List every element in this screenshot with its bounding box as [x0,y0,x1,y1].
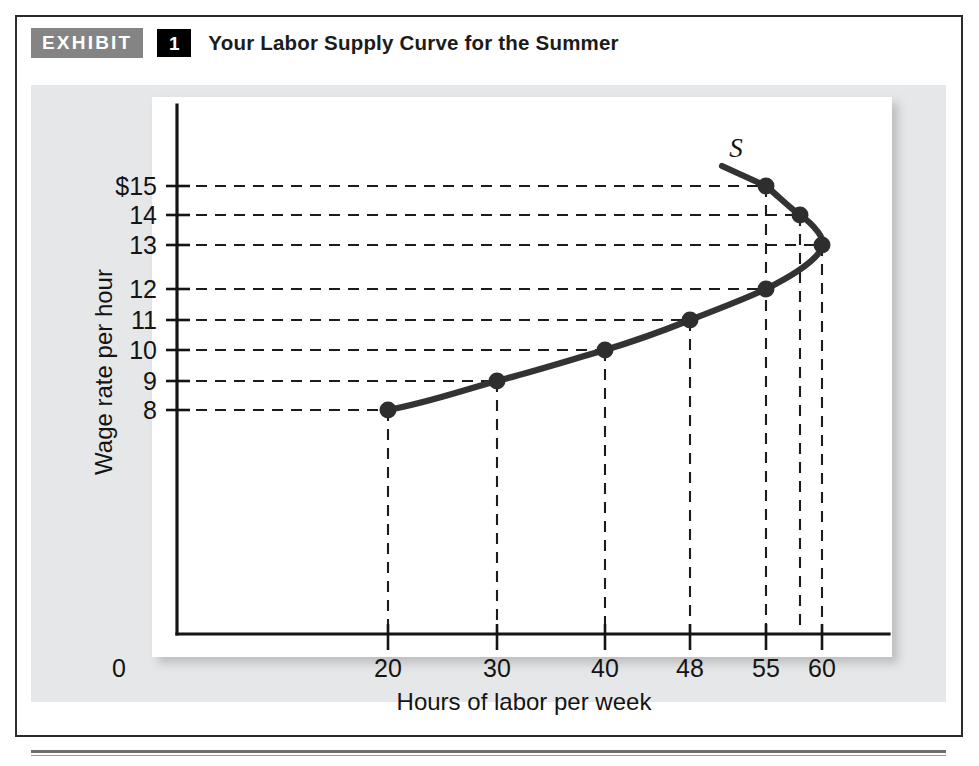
x-tick-label-55: 55 [752,654,780,682]
bottom-rule [31,750,946,753]
y-axis-title: Wage rate per hour [90,269,117,475]
y-tick-label-15: $15 [115,172,157,200]
labor-supply-chart: $15 14 13 12 11 10 9 8 0 20 30 40 48 55 … [0,0,979,766]
x-tick-label-20: 20 [374,654,402,682]
x-tick-label-60: 60 [808,654,836,682]
y-tick-label-11: 11 [131,306,157,334]
data-point-48-11 [682,312,699,329]
x-tick-label-0: 0 [112,654,126,682]
y-tick-label-12: 12 [129,275,157,303]
y-tick-label-10: 10 [129,336,157,364]
x-axis-title: Hours of labor per week [397,688,653,715]
x-axis-ticks [388,624,822,650]
data-point-40-10 [597,342,614,359]
y-tick-label-8: 8 [143,396,157,424]
data-points [380,178,831,419]
x-tick-label-40: 40 [591,654,619,682]
data-point-60-13 [814,237,831,254]
y-tick-label-9: 9 [143,367,157,395]
supply-curve-label: S [729,133,743,163]
bottom-rule-secondary [31,755,946,756]
data-point-55-12 [758,281,775,298]
x-tick-label-48: 48 [676,654,704,682]
y-tick-label-14: 14 [129,201,157,229]
y-tick-label-13: 13 [129,231,157,259]
exhibit-page: EXHIBIT 1 Your Labor Supply Curve for th… [0,0,979,766]
data-point-55-15 [758,178,775,195]
vertical-gridlines [388,186,822,634]
data-point-20-8 [380,402,397,419]
data-point-30-9 [489,373,506,390]
x-tick-label-30: 30 [483,654,511,682]
data-point-58-14 [792,207,809,224]
